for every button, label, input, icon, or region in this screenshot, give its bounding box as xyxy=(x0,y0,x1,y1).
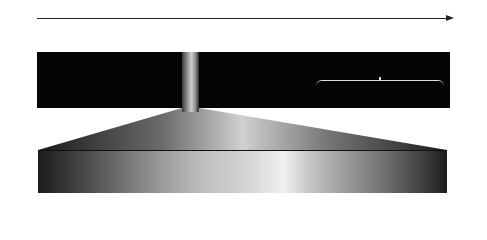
radio-brace-tip xyxy=(379,77,381,81)
radio-brace xyxy=(316,80,444,87)
visible-spectrum-bar xyxy=(38,150,447,193)
visible-light-strip xyxy=(182,52,199,112)
